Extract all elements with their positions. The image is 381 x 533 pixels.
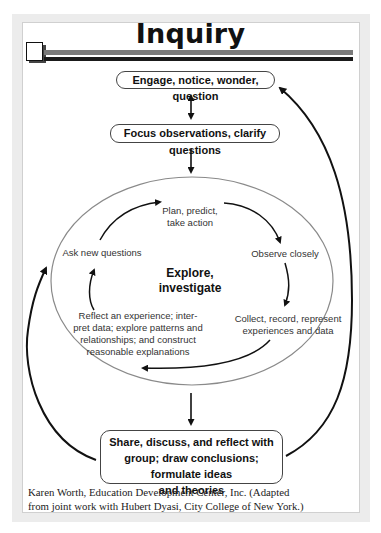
- node-explore: Explore, investigate: [150, 266, 230, 296]
- node-plan: Plan, predict, take action: [155, 205, 225, 229]
- node-engage: Engage, notice, wonder, question: [116, 71, 275, 89]
- credit-text: Karen Worth, Education Development Cente…: [28, 485, 358, 513]
- arrow-observe-to-collect: [285, 263, 289, 305]
- label-line: take action: [155, 217, 225, 229]
- arrow-ask-to-plan: [100, 202, 160, 240]
- node-focus: Focus observations, clarify questions: [110, 124, 280, 143]
- label-line: Share, discuss, and reflect with: [101, 434, 282, 450]
- credit-line: from joint work with Hubert Dyasi, City …: [28, 499, 358, 513]
- node-reflect: Reflect an experience; inter- pret data;…: [73, 310, 203, 358]
- label-line: group; draw conclusions; formulate ideas: [101, 450, 282, 482]
- arrow-plan-to-observe: [224, 203, 280, 242]
- arrow-share-to-cycle: [27, 268, 96, 460]
- node-ask: Ask new questions: [62, 247, 142, 259]
- label-line: Collect, record, represent: [228, 313, 348, 325]
- label-line: investigate: [150, 281, 230, 296]
- label-line: pret data; explore patterns and: [73, 322, 203, 334]
- credit-line: Karen Worth, Education Development Cente…: [28, 485, 358, 499]
- arrow-reflect-to-ask: [90, 270, 95, 310]
- node-observe: Observe closely: [245, 248, 325, 260]
- label-line: experiences and data: [228, 325, 348, 337]
- node-collect: Collect, record, represent experiences a…: [228, 313, 348, 337]
- label-line: Explore,: [150, 266, 230, 281]
- arrow-share-to-engage: [280, 88, 352, 456]
- label-line: relationships; and construct: [73, 334, 203, 346]
- label-line: reasonable explanations: [73, 346, 203, 358]
- label-line: Plan, predict,: [155, 205, 225, 217]
- label-line: Reflect an experience; inter-: [73, 310, 203, 322]
- node-share: Share, discuss, and reflect with group; …: [100, 430, 283, 484]
